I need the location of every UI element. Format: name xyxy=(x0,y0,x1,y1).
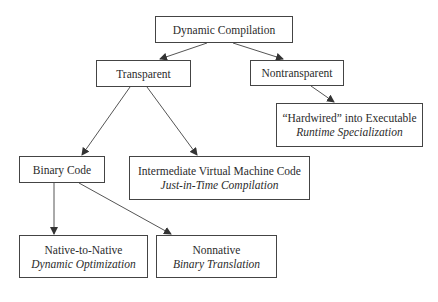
node-hardwired: “Hardwired” into Executable Runtime Spec… xyxy=(276,103,423,147)
node-label: Dynamic Compilation xyxy=(173,23,276,37)
node-nonnative: Nonnative Binary Translation xyxy=(156,235,277,278)
node-sublabel: Just-in-Time Compilation xyxy=(161,178,279,192)
edge-root-nontransparent xyxy=(233,43,283,59)
node-dynamic-compilation: Dynamic Compilation xyxy=(155,16,293,43)
node-label: Nontransparent xyxy=(262,66,333,80)
node-nontransparent: Nontransparent xyxy=(250,60,344,86)
node-sublabel: Binary Translation xyxy=(173,257,260,271)
edge-root-transparent xyxy=(160,43,207,59)
node-label: Transparent xyxy=(116,67,171,81)
node-label: “Hardwired” into Executable xyxy=(282,111,416,125)
node-label: Intermediate Virtual Machine Code xyxy=(138,164,301,178)
node-sublabel: Runtime Specialization xyxy=(296,125,402,139)
node-binary-code: Binary Code xyxy=(19,156,105,183)
node-label: Nonnative xyxy=(193,243,241,257)
node-native-to-native: Native-to-Native Dynamic Optimization xyxy=(19,235,148,278)
node-label: Binary Code xyxy=(33,163,91,177)
node-transparent: Transparent xyxy=(96,60,191,87)
node-sublabel: Dynamic Optimization xyxy=(31,257,135,271)
node-intermediate-vm-code: Intermediate Virtual Machine Code Just-i… xyxy=(129,156,310,200)
edge-nontransparent-hardwired xyxy=(311,86,334,102)
edge-transparent-ivm xyxy=(147,87,197,155)
node-label: Native-to-Native xyxy=(45,243,123,257)
edge-transparent-binary xyxy=(82,87,130,155)
